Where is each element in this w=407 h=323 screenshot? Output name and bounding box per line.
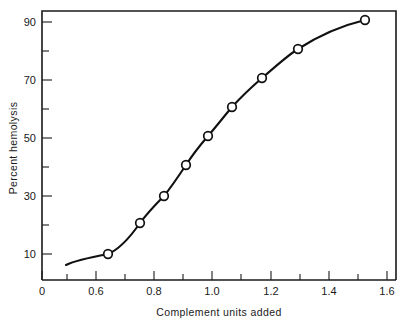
data-point xyxy=(182,161,191,170)
data-point xyxy=(228,103,237,112)
x-axis-title: Complement units added xyxy=(156,306,282,318)
x-tick-label: 1.0 xyxy=(204,285,219,297)
chart-background xyxy=(0,0,407,323)
y-tick-label: 10 xyxy=(24,248,36,260)
y-tick-label: 70 xyxy=(24,74,36,86)
x-tick-label: 0.8 xyxy=(146,285,161,297)
x-tick-label: 1.6 xyxy=(379,285,394,297)
data-point xyxy=(104,250,113,259)
data-point xyxy=(136,219,145,228)
x-tick-label: 1.2 xyxy=(263,285,278,297)
data-point xyxy=(258,74,267,83)
data-point xyxy=(204,132,213,141)
data-point xyxy=(361,16,370,25)
x-tick-label: 0.6 xyxy=(88,285,103,297)
data-point xyxy=(294,45,303,54)
y-tick-label: 30 xyxy=(24,190,36,202)
y-axis-title: Percent hemolysis xyxy=(7,102,19,195)
y-tick-label: 50 xyxy=(24,132,36,144)
y-tick-label: 90 xyxy=(24,16,36,28)
x-tick-label: 1.4 xyxy=(321,285,336,297)
hemolysis-chart: 90 70 50 30 10 0 0.6 0.8 1.0 1.2 1.4 1.6… xyxy=(0,0,407,323)
x-tick-label: 0 xyxy=(39,285,45,297)
data-point xyxy=(160,192,169,201)
